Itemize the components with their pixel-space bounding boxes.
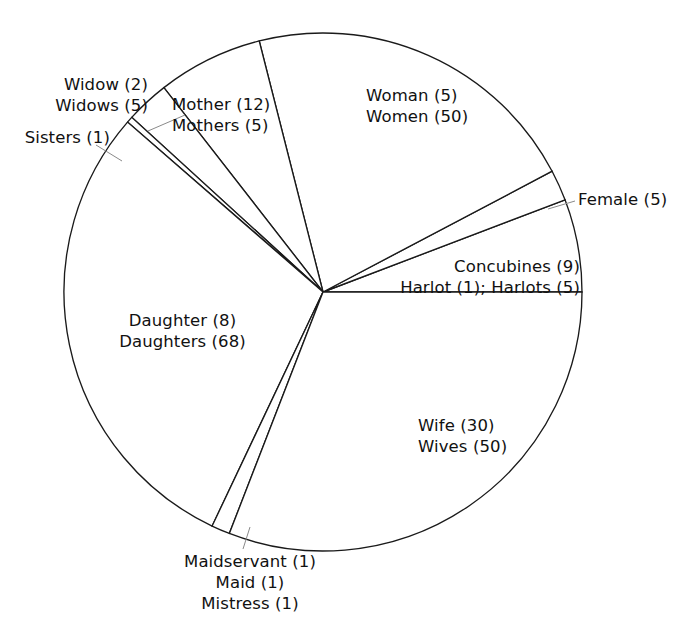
slice-label-woman: Woman (5) Women (50)	[366, 85, 506, 127]
slice-label-female-line1: Female (5)	[578, 189, 678, 210]
slice-label-wife-line2: Wives (50)	[418, 436, 548, 457]
slice-label-maid-line2: Maid (1)	[157, 572, 343, 593]
slice-label-woman-line1: Woman (5)	[366, 85, 506, 106]
slice-label-maid-line1: Maidservant (1)	[157, 551, 343, 572]
slice-label-mother-line1: Mother (12)	[172, 94, 302, 115]
slice-label-concubines-line2: Harlot (1); Harlots (5)	[380, 277, 580, 298]
slice-label-maid: Maidservant (1) Maid (1) Mistress (1)	[157, 551, 343, 614]
slice-label-sisters-line1: Sisters (1)	[0, 127, 110, 148]
slice-label-woman-line2: Women (50)	[366, 106, 506, 127]
slice-label-widow: Widow (2) Widows (5)	[28, 74, 148, 116]
slice-label-daughter-line2: Daughters (68)	[95, 331, 270, 352]
slice-label-maid-line3: Mistress (1)	[157, 593, 343, 614]
slice-label-wife: Wife (30) Wives (50)	[418, 415, 548, 457]
slice-label-female: Female (5)	[578, 189, 678, 210]
slice-label-sisters: Sisters (1)	[0, 127, 110, 148]
slice-label-mother-line2: Mothers (5)	[172, 115, 302, 136]
slice-label-daughter-line1: Daughter (8)	[95, 310, 270, 331]
slice-label-mother: Mother (12) Mothers (5)	[172, 94, 302, 136]
slice-label-daughter: Daughter (8) Daughters (68)	[95, 310, 270, 352]
pie-chart: Widow (2) Widows (5) Sisters (1) Mother …	[0, 0, 681, 638]
slice-label-concubines-line1: Concubines (9)	[380, 256, 580, 277]
slice-label-widow-line1: Widow (2)	[28, 74, 148, 95]
slice-label-widow-line2: Widows (5)	[28, 95, 148, 116]
slice-label-concubines: Concubines (9) Harlot (1); Harlots (5)	[380, 256, 580, 298]
slice-label-wife-line1: Wife (30)	[418, 415, 548, 436]
